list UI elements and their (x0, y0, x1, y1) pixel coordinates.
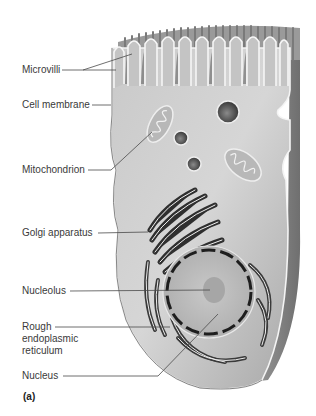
label-golgi-apparatus: Golgi apparatus (22, 227, 93, 239)
label-nucleolus: Nucleolus (22, 285, 66, 297)
nucleus (163, 246, 255, 338)
label-mitochondrion: Mitochondrion (22, 164, 85, 176)
cell-diagram: Microvilli Cell membrane Mitochondrion G… (0, 0, 316, 416)
panel-label: (a) (23, 391, 35, 402)
label-nucleus: Nucleus (22, 370, 58, 382)
label-rough-er: Rough endoplasmic reticulum (22, 321, 84, 357)
label-microvilli: Microvilli (22, 64, 60, 76)
label-cell-membrane: Cell membrane (22, 99, 90, 111)
